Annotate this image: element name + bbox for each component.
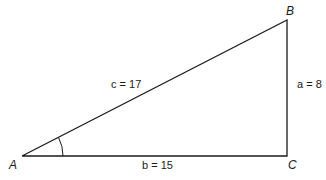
triangle-abc [22,20,287,156]
vertex-label-a: A [8,158,17,172]
side-label-b: b = 15 [142,159,173,171]
vertex-label-c: C [288,158,297,172]
side-label-a: a = 8 [297,78,322,90]
vertex-label-b: B [286,4,294,18]
angle-a-arc [59,137,64,156]
side-label-c: c = 17 [111,78,141,90]
triangle-diagram: A B C c = 17 a = 8 b = 15 [0,0,326,180]
